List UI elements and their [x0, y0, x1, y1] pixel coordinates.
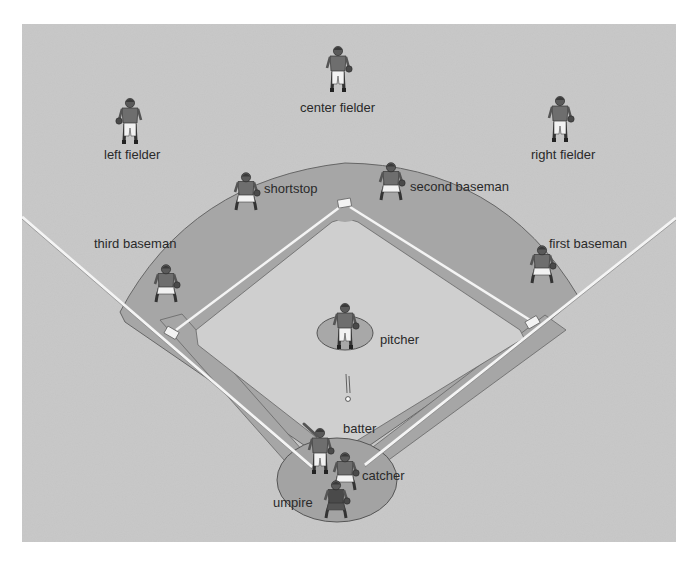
label-left-fielder: left fielder: [104, 148, 160, 161]
label-batter: batter: [343, 422, 376, 435]
label-center-fielder: center fielder: [300, 101, 375, 114]
label-pitcher: pitcher: [380, 333, 419, 346]
label-right-fielder: right fielder: [531, 148, 595, 161]
baseball-field-diagram: left fielder center fielder right fielde…: [0, 0, 690, 565]
label-umpire: umpire: [273, 496, 313, 509]
field-illustration: [0, 0, 690, 565]
label-third-baseman: third baseman: [94, 237, 176, 250]
label-catcher: catcher: [362, 469, 405, 482]
label-first-baseman: first baseman: [549, 237, 627, 250]
label-second-baseman: second baseman: [410, 180, 509, 193]
label-shortstop: shortstop: [264, 182, 317, 195]
second-base: [337, 198, 351, 208]
